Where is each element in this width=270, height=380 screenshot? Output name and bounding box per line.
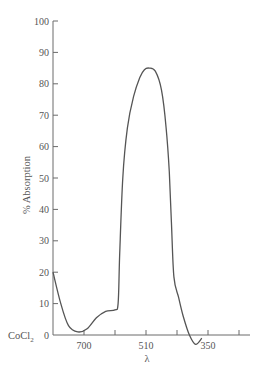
absorption-chart: 0102030405060708090100 700510350 % Absor…	[0, 0, 270, 380]
y-tick-label: 40	[39, 204, 49, 215]
y-axis: 0102030405060708090100	[34, 16, 58, 341]
y-tick-label: 10	[39, 298, 49, 309]
x-axis-label: λ	[144, 353, 150, 364]
y-tick-label: 80	[39, 78, 49, 89]
series-label-subscript: 2	[30, 336, 34, 344]
series-label-text: CoCl	[8, 330, 30, 341]
x-tick-label: 510	[139, 340, 154, 351]
y-tick-label: 70	[39, 110, 49, 121]
y-tick-label: 90	[39, 47, 49, 58]
y-tick-label: 20	[39, 267, 49, 278]
y-tick-label: 60	[39, 141, 49, 152]
x-tick-label: 700	[77, 340, 92, 351]
y-axis-label: % Absorption	[21, 155, 32, 214]
absorption-curve	[53, 68, 202, 344]
y-tick-label: 0	[44, 330, 49, 341]
x-tick-label: 350	[201, 340, 216, 351]
y-tick-label: 100	[34, 16, 49, 27]
series-label: CoCl2	[8, 330, 34, 344]
y-tick-label: 30	[39, 235, 49, 246]
x-axis: 700510350	[53, 330, 250, 351]
y-tick-label: 50	[39, 173, 49, 184]
